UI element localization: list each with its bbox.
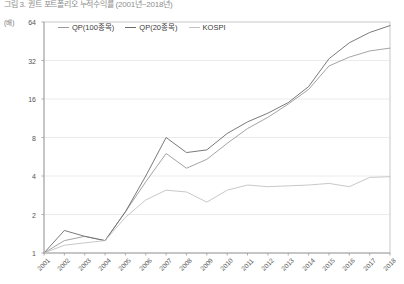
x-tick-label: 2005 bbox=[117, 257, 132, 272]
x-tick-label: 2013 bbox=[280, 257, 295, 272]
x-tick-label: 2009 bbox=[199, 257, 214, 272]
x-tick-label: 2012 bbox=[260, 257, 275, 272]
legend-entry: QP(20종목) bbox=[125, 23, 177, 32]
chart-legend: QP(100종목)QP(20종목)KOSPI bbox=[58, 23, 225, 32]
y-tick-label: 2 bbox=[16, 211, 36, 218]
chart-container: 그림 3. 퀀트 포트폴리오 누적수익률 (2001년~2018년) (배) 1… bbox=[0, 0, 404, 284]
plot-area bbox=[0, 0, 404, 284]
x-tick-label: 2014 bbox=[300, 257, 315, 272]
legend-line-swatch bbox=[58, 27, 69, 28]
x-axis-labels: 2001200220032004200520062007200820092010… bbox=[0, 256, 404, 284]
y-tick-label: 4 bbox=[16, 173, 36, 180]
x-tick-label: 2010 bbox=[219, 257, 234, 272]
x-tick-label: 2001 bbox=[36, 257, 51, 272]
y-tick-label: 16 bbox=[16, 96, 36, 103]
legend-line-swatch bbox=[189, 27, 200, 28]
x-tick-label: 2016 bbox=[341, 257, 356, 272]
x-tick-label: 2004 bbox=[97, 257, 112, 272]
x-tick-label: 2008 bbox=[178, 257, 193, 272]
x-tick-label: 2011 bbox=[239, 257, 254, 272]
legend-label: QP(100종목) bbox=[72, 23, 114, 32]
legend-line-swatch bbox=[125, 27, 136, 28]
x-tick-label: 2015 bbox=[321, 257, 336, 272]
x-tick-label: 2006 bbox=[138, 257, 153, 272]
x-tick-label: 2017 bbox=[362, 257, 377, 272]
x-tick-label: 2007 bbox=[158, 257, 173, 272]
x-tick-label: 2003 bbox=[77, 257, 92, 272]
legend-label: KOSPI bbox=[203, 23, 226, 32]
y-tick-label: 8 bbox=[16, 134, 36, 141]
y-tick-label: 64 bbox=[16, 19, 36, 26]
x-tick-label: 2018 bbox=[382, 257, 397, 272]
y-tick-label: 32 bbox=[16, 57, 36, 64]
chart-title: 그림 3. 퀀트 포트폴리오 누적수익률 (2001년~2018년) bbox=[4, 0, 304, 10]
legend-entry: QP(100종목) bbox=[58, 23, 114, 32]
y-axis-unit-label: (배) bbox=[4, 17, 14, 27]
legend-label: QP(20종목) bbox=[139, 23, 177, 32]
legend-entry: KOSPI bbox=[189, 23, 226, 32]
x-tick-label: 2002 bbox=[56, 257, 71, 272]
y-axis-labels: 1248163264 bbox=[14, 0, 36, 284]
